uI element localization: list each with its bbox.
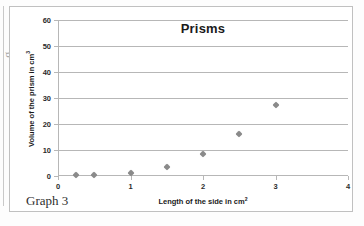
data-point — [163, 163, 170, 170]
page-left-rule — [3, 6, 4, 206]
y-tick-mark-50 — [54, 46, 58, 47]
x-tick-label-3: 3 — [273, 182, 277, 191]
gridline-y-20 — [58, 124, 348, 125]
x-tick-label-0: 0 — [56, 182, 60, 191]
gridline-y-60 — [58, 20, 348, 21]
figure-caption: Graph 3 — [26, 193, 68, 209]
x-tick-mark-2 — [203, 176, 204, 180]
data-point — [272, 101, 279, 108]
plot-area: 010203040506001234 — [58, 20, 348, 176]
x-axis-label: Length of the side in cm2 — [58, 197, 348, 206]
x-tick-mark-3 — [276, 176, 277, 180]
scatter-plot: 010203040506001234 — [58, 20, 348, 176]
data-point — [236, 131, 243, 138]
data-point — [199, 150, 206, 157]
y-tick-mark-10 — [54, 150, 58, 151]
y-tick-label-10: 10 — [43, 146, 51, 155]
y-tick-label-60: 60 — [43, 16, 51, 25]
x-tick-label-1: 1 — [128, 182, 132, 191]
y-tick-label-0: 0 — [47, 172, 51, 181]
x-tick-mark-0 — [58, 176, 59, 180]
x-tick-mark-4 — [348, 176, 349, 180]
y-tick-label-20: 20 — [43, 120, 51, 129]
x-tick-label-2: 2 — [201, 182, 205, 191]
y-tick-label-40: 40 — [43, 68, 51, 77]
y-tick-mark-30 — [54, 98, 58, 99]
y-tick-mark-20 — [54, 124, 58, 125]
y-tick-label-30: 30 — [43, 94, 51, 103]
chart-figure-box: Prisms Volume of the prism in cm3 010203… — [9, 6, 353, 212]
gridline-y-50 — [58, 46, 348, 47]
y-tick-label-50: 50 — [43, 42, 51, 51]
y-tick-mark-60 — [54, 20, 58, 21]
x-tick-label-4: 4 — [346, 182, 350, 191]
y-tick-mark-40 — [54, 72, 58, 73]
y-axis-label-text: Volume of the prism in cm3 — [27, 51, 36, 147]
data-point — [73, 172, 80, 179]
y-axis-label: Volume of the prism in cm3 — [24, 23, 38, 175]
gridline-y-30 — [58, 98, 348, 99]
data-point — [91, 172, 98, 179]
gridline-y-40 — [58, 72, 348, 73]
scanned-page: g. Prisms Volume of the prism in cm3 010… — [0, 0, 364, 226]
